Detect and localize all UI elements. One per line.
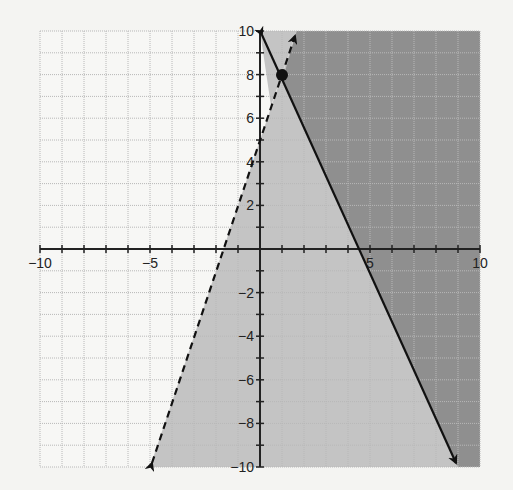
y-tick-label: −2 [238,285,254,301]
x-tick-label: −10 [28,255,52,271]
y-tick-label: −8 [238,415,254,431]
x-tick-label: 10 [472,255,488,271]
y-tick-label: 2 [246,197,254,213]
coordinate-plane: −10−5510108642−2−4−6−8−10 [0,0,513,490]
y-tick-label: −10 [230,459,254,475]
y-tick-label: −6 [238,372,254,388]
y-tick-label: 10 [238,23,254,39]
plotted-point [276,69,288,81]
y-tick-label: 8 [246,67,254,83]
y-tick-label: 6 [246,110,254,126]
x-tick-label: −5 [142,255,158,271]
y-tick-label: −4 [238,328,254,344]
